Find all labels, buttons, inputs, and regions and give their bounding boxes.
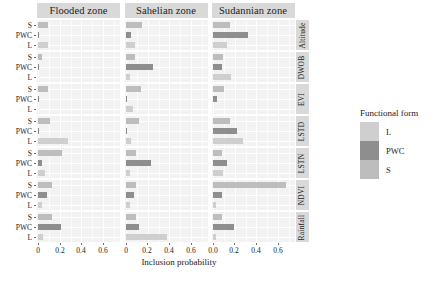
gridline-horizontal [125,77,208,78]
x-axis-tick [60,243,61,245]
row-strip-altitude: Altitude [296,20,309,50]
bar-ndvi-flooded-l [38,202,42,208]
gridline-horizontal [37,195,120,196]
y-axis-label-l: L [2,42,32,49]
y-axis-tick [34,131,36,132]
bar-altitude-flooded-s [38,22,48,28]
gridline-horizontal [37,131,120,132]
bar-lstd-sahelian-l [126,138,132,144]
bar-lstd-flooded-l [38,138,68,144]
bar-rainfall-flooded-l [38,234,43,240]
y-axis-tick [34,77,36,78]
bar-altitude-flooded-pwc [38,32,39,38]
panel-altitude-sudannian [212,20,295,50]
legend-label-l: L [386,127,391,137]
y-axis-label-s: S [2,86,32,93]
x-axis-tick [213,243,214,245]
y-axis-label-pwc: PWC [2,32,32,39]
gridline-horizontal [37,25,120,26]
panel-altitude-sahelian [125,20,208,50]
gridline-horizontal [37,109,120,110]
gridline-horizontal [125,205,208,206]
y-axis-tick [34,121,36,122]
bar-lstd-sahelian-s [126,118,140,124]
panel-dwob-flooded [37,52,120,82]
legend-title: Functional form [360,108,442,118]
row-strip-label: DWOB [298,55,307,79]
bar-lstn-sudannian-s [213,150,223,156]
gridline-horizontal [212,67,295,68]
row-strip-label: Altitude [298,22,307,48]
gridline-horizontal [125,35,208,36]
bar-evi-sahelian-pwc [126,96,127,102]
gridline-horizontal [212,109,295,110]
legend-item-l[interactable]: L [360,122,442,141]
bar-ndvi-flooded-s [38,182,52,188]
gridline-horizontal [37,99,120,100]
y-axis-tick [34,227,36,228]
bar-altitude-flooded-l [38,42,48,48]
gridline-horizontal [37,89,120,90]
gridline-horizontal [212,217,295,218]
y-axis-tick [34,45,36,46]
y-axis-tick [34,109,36,110]
legend-item-s[interactable]: S [360,160,442,179]
bar-rainfall-sudannian-l [213,234,216,240]
panel-dwob-sudannian [212,52,295,82]
bar-evi-sudannian-pwc [213,96,217,102]
x-axis-tick-label: 0.4 [70,246,92,255]
panel-lstd-sudannian [212,116,295,146]
x-axis-tick-label: 0 [27,246,49,255]
x-axis-title: Inclusion probability [14,257,344,267]
gridline-horizontal [37,237,120,238]
bar-rainfall-flooded-s [38,214,52,220]
gridline-horizontal [125,173,208,174]
x-axis-tick [256,243,257,245]
legend-item-pwc[interactable]: PWC [360,141,442,160]
legend: Functional formLPWCS [360,108,442,179]
x-axis-tick [191,243,192,245]
bar-rainfall-sahelian-s [126,214,137,220]
column-strip-flooded-zone: Flooded zone [37,3,120,18]
gridline-horizontal [212,237,295,238]
bar-rainfall-flooded-pwc [38,224,61,230]
bar-dwob-flooded-pwc [38,64,39,70]
panel-lstn-sahelian [125,148,208,178]
gridline-horizontal [212,173,295,174]
y-axis-label-s: S [2,54,32,61]
panel-lstd-sahelian [125,116,208,146]
bar-ndvi-sudannian-l [213,202,216,208]
x-axis-tick-label: 0.4 [245,246,267,255]
row-strip-label: LSTD [298,121,307,141]
bar-evi-sahelian-s [126,86,141,92]
bar-ndvi-sahelian-l [126,202,130,208]
x-axis-tick [103,243,104,245]
y-axis-label-pwc: PWC [2,192,32,199]
bar-lstn-sahelian-pwc [126,160,151,166]
y-axis-label-pwc: PWC [2,96,32,103]
bar-dwob-sahelian-l [126,74,131,80]
gridline-horizontal [212,99,295,100]
gridline-horizontal [125,141,208,142]
gridline-horizontal [212,153,295,154]
bar-dwob-sudannian-l [213,74,231,80]
x-axis-tick-label: 0.2 [49,246,71,255]
x-axis-tick [234,243,235,245]
bar-lstd-sudannian-l [213,138,244,144]
y-axis-tick [34,89,36,90]
gridline-horizontal [37,205,120,206]
bar-dwob-sudannian-s [213,54,223,60]
bar-altitude-sudannian-pwc [213,32,249,38]
x-axis-tick-label: 0 [115,246,137,255]
x-axis-tick-label: 0.2 [223,246,245,255]
panel-evi-sudannian [212,84,295,114]
panel-ndvi-sudannian [212,180,295,210]
gridline-horizontal [37,67,120,68]
bar-evi-sahelian-l [126,106,134,112]
bar-altitude-sahelian-l [126,42,135,48]
x-axis-tick-label: 0.4 [158,246,180,255]
row-strip-label: EVI [298,92,307,105]
panel-rainfall-sudannian [212,212,295,242]
bar-rainfall-sudannian-pwc [213,224,235,230]
x-axis-tick [81,243,82,245]
